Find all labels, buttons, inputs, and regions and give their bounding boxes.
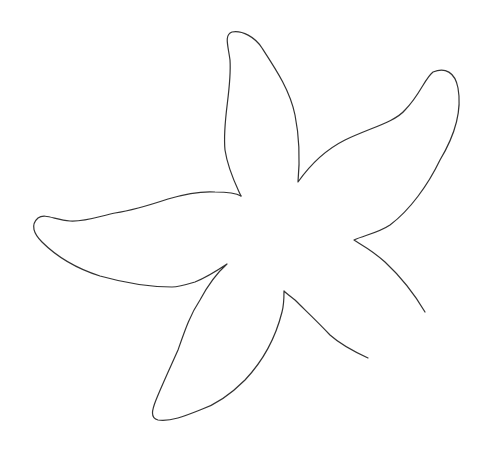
starfish-outline [0, 0, 480, 450]
drawing-canvas [0, 0, 480, 450]
